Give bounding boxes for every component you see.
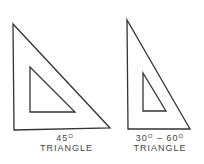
30-60-triangle-shape (127, 20, 190, 129)
30-60-angle-label: 30O – 60O (130, 133, 190, 143)
45-triangle-label: 45O TRIANGLE (40, 133, 90, 153)
45-triangle-outer (13, 24, 110, 130)
45-angle-label: 45O (40, 133, 90, 143)
30-60-triangle-outer (127, 20, 190, 129)
45-triangle-shape (13, 24, 110, 130)
30-60-triangle-inner (143, 73, 166, 111)
45-type-label: TRIANGLE (40, 143, 90, 153)
45-triangle-inner (30, 67, 75, 112)
30-60-triangle-label: 30O – 60O TRIANGLE (130, 133, 190, 153)
30-60-type-label: TRIANGLE (130, 143, 190, 153)
